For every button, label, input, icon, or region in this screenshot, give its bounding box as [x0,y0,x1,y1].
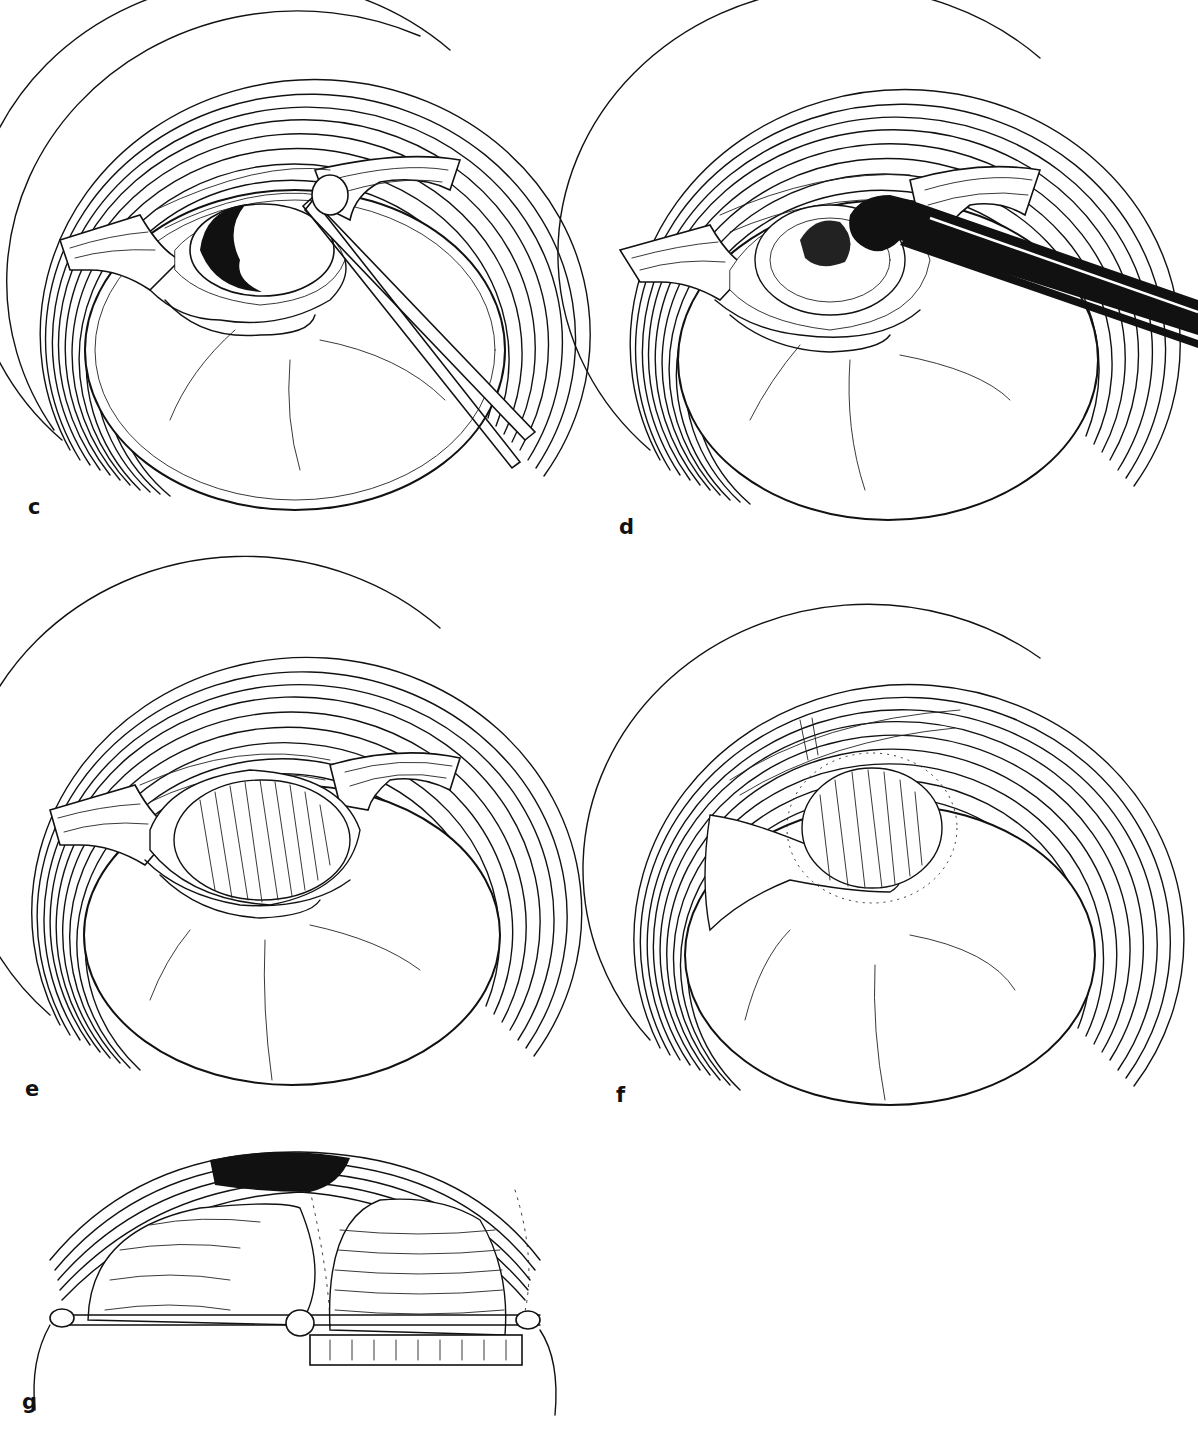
graft-hatched-oval [802,768,942,888]
annulus-middle [286,1310,314,1336]
ear-canal-illustration-c [0,0,560,540]
panel-g: g [0,1130,600,1439]
panel-c: c [0,0,560,540]
panel-label-c: c [28,497,40,518]
panel-label-f: f [616,1085,625,1106]
ear-canal-illustration-f [590,580,1198,1120]
ear-canal-illustration-e [0,560,590,1100]
panel-label-e: e [25,1079,39,1100]
panel-label-d: d [619,517,634,538]
panel-f: f [590,580,1198,1120]
support-block [310,1335,522,1365]
graft-hatched-oval [174,780,350,900]
panel-d: d [600,0,1198,560]
canal-cross-section-g [0,1130,600,1439]
ear-canal-illustration-d [600,0,1198,560]
panel-e: e [0,560,590,1100]
dark-shading [210,1152,350,1192]
annulus-right [516,1311,540,1329]
instrument-tip [312,175,348,215]
annulus-left [50,1309,74,1327]
panel-label-g: g [22,1392,37,1413]
